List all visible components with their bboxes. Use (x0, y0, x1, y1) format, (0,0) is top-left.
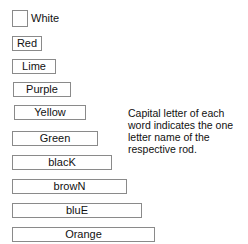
rod-red: Red (12, 36, 42, 51)
rod-label-white: White (31, 12, 59, 25)
rod-green: Green (12, 131, 98, 146)
legend-note: Capital letter of each word indicates th… (128, 107, 246, 155)
rod-brown: browN (12, 179, 127, 194)
rod-black: blacK (12, 155, 112, 170)
rod-blue: bluE (12, 203, 142, 218)
rod-orange: Orange (12, 227, 155, 242)
rod-yellow: Yellow (14, 105, 86, 120)
rod-lime: Lime (12, 59, 56, 74)
rod-white-box (12, 10, 28, 27)
rod-purple: Purple (13, 82, 71, 97)
